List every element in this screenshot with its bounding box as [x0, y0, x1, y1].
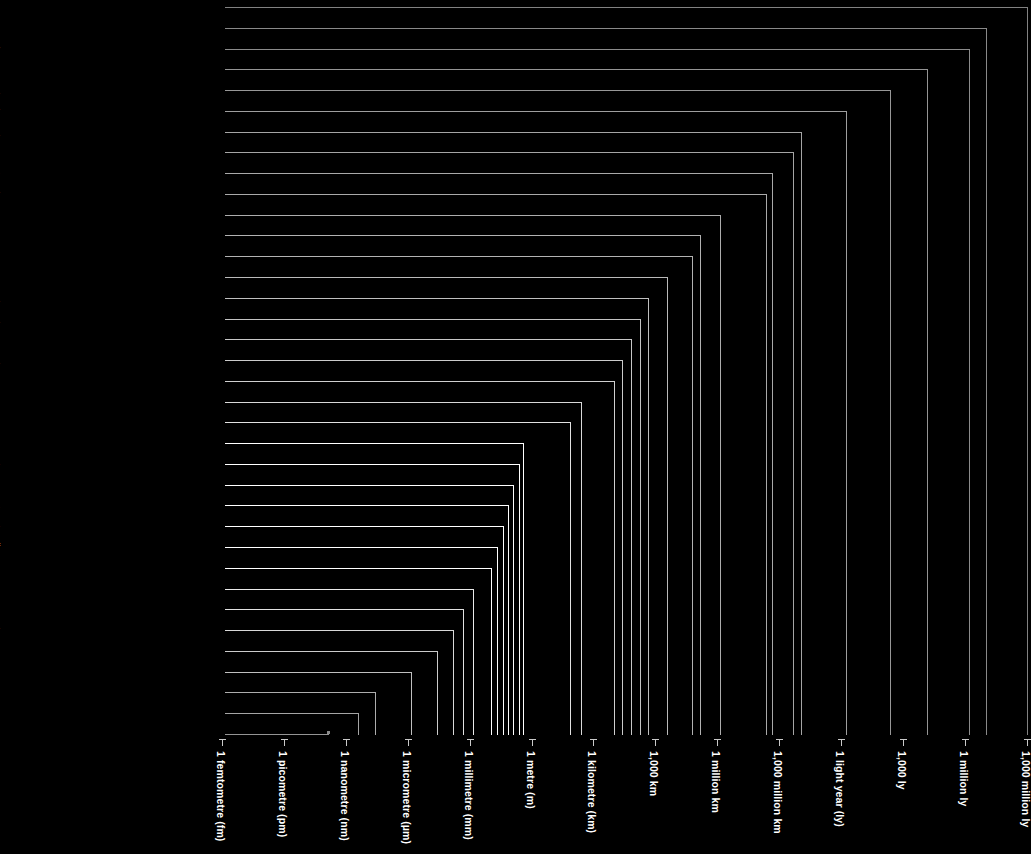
bar-stem [523, 443, 524, 735]
leader-line [225, 422, 570, 423]
bar-stem [720, 215, 721, 735]
axis-tick-label: 1 kilometre (km) [586, 751, 598, 833]
leader-line [225, 277, 667, 278]
bar-stem [648, 298, 649, 735]
leader-line [225, 381, 614, 382]
leader-line [225, 235, 700, 236]
leader-line [225, 526, 503, 527]
axis-tick-cap [529, 739, 536, 740]
leader-line [225, 90, 890, 91]
bar-stem [667, 277, 668, 735]
axis-tick-label: 1 millimetre (mm) [463, 751, 475, 840]
bar-stem [622, 360, 623, 735]
bar-stem [700, 235, 701, 735]
axis-tick [655, 739, 656, 746]
bar-stem [581, 402, 582, 735]
bar-stem [986, 28, 987, 735]
axis-tick-cap [838, 739, 845, 740]
axis-tick-label: 1,000 ly [896, 751, 908, 790]
axis-tick-cap [405, 739, 412, 740]
leader-line [225, 713, 358, 714]
axis-tick-cap [776, 739, 783, 740]
axis-tick-cap [962, 739, 969, 740]
bar-stem [692, 256, 693, 735]
leader-line [225, 734, 328, 735]
leader-line [225, 672, 411, 673]
leader-line [225, 132, 801, 133]
bar-stem [969, 49, 970, 735]
bar-stem [491, 568, 492, 735]
leader-line [225, 630, 453, 631]
leader-line [225, 152, 793, 153]
bar-stem [793, 152, 794, 735]
axis-tick [532, 739, 533, 746]
axis-tick [779, 739, 780, 746]
leader-line [225, 28, 986, 29]
bar-stem [375, 692, 376, 735]
scale-of-the-universe-chart: Distance to Quasar 1007 + 417Distance to… [0, 0, 1031, 854]
leader-line [225, 692, 375, 693]
leader-line [225, 547, 497, 548]
bar-stem [328, 734, 329, 735]
axis-tick-label: 1 femtometre (fm) [215, 751, 227, 841]
bar-stem [766, 194, 767, 735]
bar-stem [437, 651, 438, 735]
bar-stem [503, 526, 504, 735]
axis-tick [965, 739, 966, 746]
axis-tick [284, 739, 285, 746]
axis-tick-cap [590, 739, 597, 740]
leader-line [225, 256, 692, 257]
axis-tick [1027, 739, 1028, 746]
leader-line [225, 194, 766, 195]
bar-stem [846, 111, 847, 735]
axis-tick-label: 1 picometre (pm) [277, 751, 289, 837]
leader-line [225, 402, 581, 403]
axis-tick-cap [652, 739, 659, 740]
bar-stem [614, 381, 615, 735]
leader-line [225, 651, 437, 652]
axis-tick-cap [343, 739, 350, 740]
axis-tick [841, 739, 842, 746]
axis-tick-cap [467, 739, 474, 740]
bar-stem [358, 713, 359, 735]
bar-stem [890, 90, 891, 735]
bar-stem [473, 589, 474, 735]
bar-stem [640, 319, 641, 735]
bar-stem [801, 132, 802, 735]
axis-tick [903, 739, 904, 746]
axis-tick-label: 1 nanometre (nm) [339, 751, 351, 841]
axis-tick-cap [900, 739, 907, 740]
bar-stem [519, 464, 520, 735]
leader-line [225, 609, 463, 610]
leader-line [225, 443, 523, 444]
leader-line [225, 49, 969, 50]
axis-tick-label: 1,000 km [648, 751, 660, 796]
bar-stem [453, 630, 454, 735]
leader-line [225, 7, 1027, 8]
leader-line [225, 319, 640, 320]
leader-line [225, 360, 622, 361]
axis-tick-label: 1,000 million km [772, 751, 784, 834]
leader-line [225, 589, 473, 590]
leader-line [225, 69, 927, 70]
bar-stem [1027, 7, 1028, 735]
bar-stem [411, 672, 412, 735]
axis-tick-label: 1 light year (ly) [834, 751, 846, 827]
bar-stem [631, 339, 632, 735]
leader-line [225, 173, 772, 174]
axis-tick [470, 739, 471, 746]
bar-stem [513, 485, 514, 735]
axis-tick-cap [1024, 739, 1031, 740]
leader-line [225, 215, 720, 216]
leader-line [225, 505, 508, 506]
axis-tick-label: 1 metre (m) [525, 751, 537, 809]
leader-line [225, 485, 513, 486]
bar-stem [570, 422, 571, 735]
leader-line [225, 568, 491, 569]
bar-stem [508, 505, 509, 735]
leader-line [225, 339, 631, 340]
axis-tick [717, 739, 718, 746]
axis-tick-cap [281, 739, 288, 740]
axis-tick-cap [714, 739, 721, 740]
axis-tick [346, 739, 347, 746]
